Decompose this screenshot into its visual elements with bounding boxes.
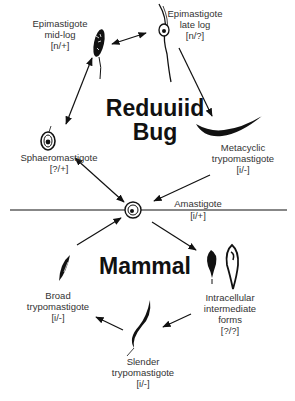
stage-code: [n/?]: [163, 30, 227, 41]
stage-code: [n/+]: [30, 40, 90, 51]
intracellular-forms-icon: [207, 245, 238, 289]
stage-name: trypomastigote: [198, 153, 288, 164]
stage-code: [?/+]: [14, 163, 104, 174]
stage-label-sphaeromastigote: Sphaeromastigote [?/+]: [14, 152, 104, 174]
stage-name: Epimastigote: [30, 18, 90, 29]
stage-name: Broad: [13, 290, 103, 301]
stage-name: trypomastigote: [13, 301, 103, 312]
stage-name: late log: [163, 19, 227, 30]
stage-name: mid-log: [30, 29, 90, 40]
host-label-line1: Reduuiid: [100, 96, 210, 120]
arrow-amastigote-intracellular: [152, 222, 196, 250]
broad-trypomastigote-icon: [59, 255, 70, 281]
host-label-reduviid-bug: Reduuiid Bug: [100, 96, 210, 144]
stage-name: Epimastigote: [163, 8, 227, 19]
stage-label-metacyclic-trypomastigote: Metacyclic trypomastigote [i/-]: [198, 142, 288, 175]
arrow-intracellular-slender: [163, 314, 191, 327]
stage-name: trypomastigote: [98, 367, 188, 378]
stage-code: [i/-]: [198, 164, 288, 175]
stage-name: forms: [190, 314, 270, 325]
stage-label-amastigote: Amastigote [i/+]: [158, 198, 238, 221]
arrow-broad-amastigote: [77, 218, 121, 245]
arrow-epi-mid-epi-late: [112, 33, 146, 44]
host-label-line2: Bug: [100, 120, 210, 144]
stage-code: [i/-]: [98, 378, 188, 389]
stage-name: Sphaeromastigote: [14, 152, 104, 163]
arrow-epi-mid-sphaero: [66, 58, 92, 124]
life-cycle-diagram: [0, 0, 295, 401]
stage-label-epimastigote-late-log: Epimastigote late log [n/?]: [163, 8, 227, 41]
stage-code: [i/-]: [13, 312, 103, 323]
stage-label-slender-trypomastigote: Slender trypomastigote [i/-]: [98, 356, 188, 389]
epimastigote-mid-log-icon: [91, 28, 107, 79]
stage-label-epimastigote-mid-log: Epimastigote mid-log [n/+]: [30, 18, 90, 51]
sphaeromastigote-icon: [41, 126, 55, 150]
stage-label-intracellular-intermediate-forms: Intracellular intermediate forms [?/?]: [190, 292, 270, 336]
stage-name: Slender: [98, 356, 188, 367]
stage-name: intermediate: [190, 303, 270, 314]
stage-name: Amastigote: [158, 198, 238, 209]
stage-code: [?/?]: [190, 325, 270, 336]
stage-name: Intracellular: [190, 292, 270, 303]
slender-trypomastigote-icon: [127, 300, 150, 356]
stage-label-broad-trypomastigote: Broad trypomastigote [i/-]: [13, 290, 103, 323]
stage-code: [i/+]: [158, 210, 238, 221]
amastigote-icon: [125, 202, 141, 218]
host-label-mammal: Mammal: [90, 254, 200, 278]
stage-name: Metacyclic: [198, 142, 288, 153]
